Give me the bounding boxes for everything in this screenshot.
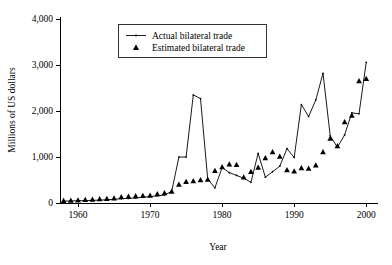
chart-legend: Actual bilateral tradeEstimated bilatera…	[118, 24, 266, 57]
actual-trade-point	[200, 98, 202, 100]
x-tick-label: 1960	[69, 210, 88, 220]
actual-trade-point	[322, 72, 324, 74]
actual-trade-point	[279, 165, 281, 167]
actual-trade-point	[228, 172, 230, 174]
y-tick-label: 1,000	[32, 152, 54, 162]
actual-trade-point	[272, 171, 274, 173]
legend-label-estimated: Estimated bilateral trade	[152, 43, 245, 53]
y-tick-label: 3,000	[32, 60, 54, 70]
actual-trade-point	[365, 61, 367, 63]
chart-container: 01,0002,0003,0004,000 196019701980199020…	[0, 0, 392, 265]
actual-trade-point	[250, 181, 252, 183]
actual-trade-point	[265, 176, 267, 178]
actual-trade-point	[236, 175, 238, 177]
actual-trade-point	[293, 157, 295, 159]
actual-trade-point	[214, 187, 216, 189]
x-axis-title: Year	[209, 242, 227, 252]
actual-trade-point	[185, 156, 187, 158]
y-tick-label: 0	[48, 198, 53, 208]
legend-label-actual: Actual bilateral trade	[152, 31, 232, 41]
x-tick-label: 2000	[357, 210, 376, 220]
x-tick-label: 1980	[213, 210, 232, 220]
x-tick-label: 1970	[141, 210, 160, 220]
y-tick-label: 2,000	[32, 106, 54, 116]
actual-trade-point	[286, 148, 288, 150]
actual-trade-point	[301, 104, 303, 106]
actual-trade-point	[308, 116, 310, 118]
y-tick-label: 4,000	[32, 14, 54, 24]
actual-trade-point	[344, 134, 346, 136]
x-tick-label: 1990	[285, 210, 304, 220]
actual-trade-point	[178, 156, 180, 158]
actual-trade-point	[192, 94, 194, 96]
actual-trade-point	[257, 152, 259, 154]
actual-trade-point	[315, 99, 317, 101]
bilateral-trade-line-chart: 01,0002,0003,0004,000 196019701980199020…	[0, 0, 392, 265]
legend-line-dot	[135, 34, 137, 36]
y-axis-title: Millions of US dollars	[7, 67, 17, 153]
actual-trade-point	[358, 113, 360, 115]
